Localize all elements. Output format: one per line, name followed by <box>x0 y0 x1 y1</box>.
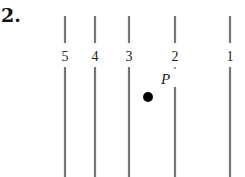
line-label-4: 4 <box>92 49 99 64</box>
point-p-label: P <box>160 71 170 87</box>
line-label-2: 2 <box>172 49 179 64</box>
parallel-lines-diagram: 5 4 3 2 1 P <box>0 0 245 177</box>
line-label-3: 3 <box>126 49 133 64</box>
line-label-5: 5 <box>62 49 69 64</box>
line-label-1: 1 <box>227 49 234 64</box>
point-p-dot <box>143 92 153 102</box>
small-dot <box>174 67 176 69</box>
